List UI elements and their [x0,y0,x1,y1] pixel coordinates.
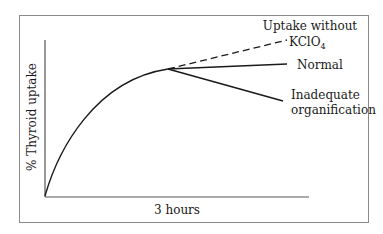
x-axis-label: 3 hours [154,203,200,217]
label-organification: organification [291,103,376,117]
label-uptake-without: Uptake without [263,19,358,33]
label-normal: Normal [297,58,343,72]
y-axis-label: % Thyroid uptake [25,63,39,171]
chart-figure: Uptake without KClO4 Normal Inadequate o… [0,0,383,234]
label-inadequate: Inadequate [291,88,360,102]
label-kclo4: KClO4 [289,35,326,51]
